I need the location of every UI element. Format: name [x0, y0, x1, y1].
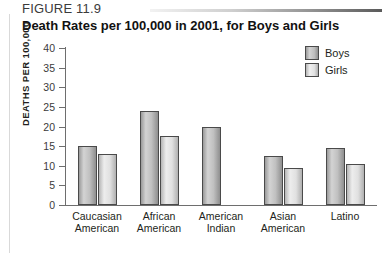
legend-label: Boys	[325, 47, 349, 59]
figure-container: FIGURE 11.9 Death Rates per 100,000 in 2…	[0, 0, 390, 253]
category-label: Latino	[314, 210, 376, 222]
bar-boys	[326, 148, 345, 205]
y-axis-tick-label: 5	[49, 179, 55, 191]
y-axis-tick-label: 20	[43, 121, 55, 133]
y-axis-tick-mark	[59, 107, 66, 108]
legend-item-girls: Girls	[305, 63, 349, 77]
y-axis-tick-mark	[59, 127, 66, 128]
bar-girls	[98, 154, 117, 205]
bar-group	[66, 146, 128, 205]
bar-group	[190, 127, 252, 206]
legend-swatch-boys	[305, 46, 319, 60]
y-axis-tick-label: 30	[43, 81, 55, 93]
y-axis-tick-label: 35	[43, 62, 55, 74]
y-axis-tick-label: 10	[43, 160, 55, 172]
y-axis-tick-mark	[59, 185, 66, 186]
y-axis-tick-mark	[59, 205, 66, 206]
left-rule-divider	[9, 14, 10, 253]
figure-title: Death Rates per 100,000 in 2001, for Boy…	[22, 18, 339, 33]
y-axis-tick-label: 15	[43, 140, 55, 152]
category-label: CaucasianAmerican	[66, 210, 128, 234]
bar-boys	[140, 111, 159, 205]
bar-group	[314, 148, 376, 205]
x-axis-line	[65, 205, 377, 206]
category-label: AfricanAmerican	[128, 210, 190, 234]
y-axis-tick-mark	[59, 87, 66, 88]
y-axis-tick-label: 40	[43, 42, 55, 54]
y-axis-tick-label: 0	[49, 199, 55, 211]
category-label: AmericanIndian	[190, 210, 252, 234]
chart-legend: BoysGirls	[305, 46, 349, 77]
bar-group	[128, 111, 190, 205]
y-axis-tick-mark	[59, 146, 66, 147]
bar-boys	[78, 146, 97, 205]
bar-girls	[160, 136, 179, 205]
bar-boys	[202, 127, 221, 206]
y-axis-tick-label: 25	[43, 101, 55, 113]
figure-number: FIGURE 11.9	[22, 1, 101, 16]
y-axis-tick-mark	[59, 68, 66, 69]
legend-swatch-girls	[305, 63, 319, 77]
y-axis-tick-mark	[59, 48, 66, 49]
y-axis-title: DEATHS PER 100,000	[20, 21, 31, 126]
bar-boys	[264, 156, 283, 205]
y-axis-tick-mark	[59, 166, 66, 167]
bar-girls	[284, 168, 303, 205]
bar-girls	[346, 164, 365, 205]
header-rule-divider	[150, 9, 382, 12]
legend-label: Girls	[325, 64, 348, 76]
bar-group	[252, 156, 314, 205]
category-label: AsianAmerican	[252, 210, 314, 234]
legend-item-boys: Boys	[305, 46, 349, 60]
